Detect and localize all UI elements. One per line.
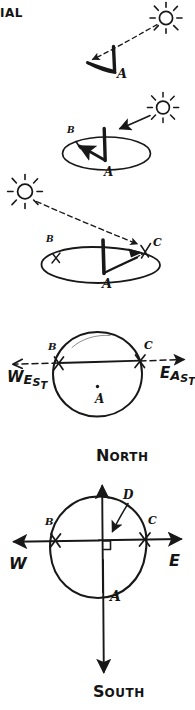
sun-icon [147, 92, 178, 122]
west-axis-dashed [14, 363, 58, 364]
dial-plate-ellipse [42, 247, 161, 283]
west-letter-2: S [32, 376, 40, 389]
fig3-label-a: A [102, 276, 112, 291]
chord-b-c [59, 361, 141, 363]
west-letter-3: T [40, 380, 47, 391]
page-title-fragment: IAL [0, 6, 23, 20]
south-initial: S [93, 682, 105, 701]
fig5-label-d: D [123, 488, 133, 502]
east-axis [99, 539, 181, 540]
center-dot-a [96, 385, 99, 388]
sun-icon [8, 175, 43, 209]
east-letter-1: A [170, 368, 180, 383]
fig3-label-c: C [153, 236, 162, 249]
west-letter-0: W [7, 368, 24, 386]
north-initial: N [96, 446, 109, 465]
d-pointer-arrow [113, 504, 129, 532]
handdrawn-figure-canvas [0, 0, 195, 710]
gnomon-stick [104, 129, 105, 161]
west-short-label: W [9, 554, 27, 573]
fig5-label-c: C [148, 514, 157, 527]
shadow-arrowhead [129, 249, 143, 258]
east-label: EAST [160, 364, 195, 383]
south-axis [103, 560, 104, 672]
fig1-label-a: A [117, 66, 127, 81]
sun-ray-arrow [120, 116, 150, 129]
south-label: SOUTH [93, 682, 145, 701]
figure-2-group [63, 92, 179, 170]
fig2-label-b: B [67, 125, 75, 135]
north-label: NORTH [96, 446, 149, 465]
east-letter-2: S [180, 372, 188, 385]
gnomon-stick [103, 240, 104, 274]
fig4-label-c: C [144, 339, 153, 352]
figure-1-group [88, 3, 183, 73]
fig4-label-a: A [95, 392, 104, 406]
gnomon-stick [114, 47, 115, 72]
figure-3-group [8, 175, 160, 283]
fig4-label-b: B [48, 341, 56, 352]
west-letter-1: E [24, 372, 33, 387]
shadow-to-b [80, 146, 106, 160]
right-angle-mark [104, 541, 111, 550]
sun-ray-dashed [93, 25, 158, 60]
north-rest: ORTH [109, 450, 148, 464]
east-letter-0: E [160, 364, 170, 382]
south-rest: OUTH [105, 686, 145, 700]
east-short-label: E [169, 551, 180, 570]
diagram-sheet: IAL A B A B C A B C A WEST EAST NORTH SO… [0, 0, 195, 710]
fig5-label-b: B [45, 516, 53, 527]
sun-icon [150, 3, 182, 34]
fig2-label-a: A [104, 165, 113, 179]
west-label: WEST [7, 368, 47, 387]
east-letter-3: T [188, 376, 195, 387]
fig5-label-a: A [110, 588, 121, 604]
east-axis-dashed [140, 360, 184, 362]
fig3-label-b: B [46, 234, 54, 244]
plan-circle [50, 497, 146, 599]
